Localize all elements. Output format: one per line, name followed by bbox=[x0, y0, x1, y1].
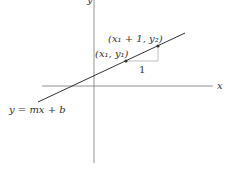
point-x1plus1-y2 bbox=[156, 44, 159, 47]
point-1-label: (x₁, y₁) bbox=[95, 48, 129, 59]
run-label: 1 bbox=[139, 64, 145, 75]
x-axis-label: x bbox=[217, 80, 223, 91]
y-axis-label: y bbox=[86, 0, 93, 5]
point-x1-y1 bbox=[124, 59, 127, 62]
slope-diagram: x y (x₁, y₁) (x₁ + 1, y₂) 1 y = mx + b bbox=[0, 0, 227, 171]
point-2-label: (x₁ + 1, y₂) bbox=[108, 33, 163, 44]
line-equation-label: y = mx + b bbox=[8, 104, 66, 115]
